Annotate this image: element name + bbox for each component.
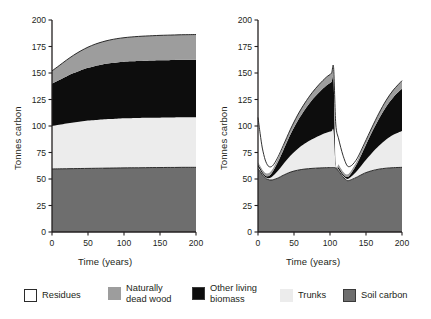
svg-text:0: 0 — [256, 238, 261, 248]
svg-text:150: 150 — [238, 68, 253, 78]
svg-text:125: 125 — [238, 95, 253, 105]
svg-text:75: 75 — [36, 148, 46, 158]
chart-panel-managed: Tonnes carbon Time (years) 0255075100125… — [206, 0, 431, 275]
figure-container: Tonnes carbon Time (years) 0255075100125… — [0, 0, 431, 319]
trunks-swatch-icon — [280, 289, 293, 302]
legend-item-soil-carbon: Soil carbon — [343, 289, 408, 302]
svg-text:50: 50 — [242, 174, 252, 184]
svg-text:25: 25 — [36, 201, 46, 211]
legend-label: Other living biomass — [210, 283, 257, 304]
svg-text:100: 100 — [323, 238, 338, 248]
residues-swatch-icon — [24, 289, 37, 302]
svg-text:200: 200 — [189, 238, 204, 248]
svg-text:150: 150 — [153, 238, 168, 248]
svg-text:100: 100 — [117, 238, 132, 248]
svg-text:200: 200 — [395, 238, 410, 248]
legend-item-residues: Residues — [24, 289, 81, 302]
dead-wood-swatch-icon — [108, 287, 121, 300]
legend-label: Soil carbon — [361, 290, 408, 301]
svg-text:50: 50 — [36, 174, 46, 184]
svg-text:125: 125 — [32, 95, 47, 105]
svg-text:50: 50 — [83, 238, 93, 248]
svg-text:100: 100 — [238, 121, 253, 131]
legend-item-other-living-biomass: Other living biomass — [192, 283, 257, 304]
plot-area-unmanaged: 0255075100125150175200050100150200 — [0, 0, 215, 275]
svg-text:75: 75 — [242, 148, 252, 158]
legend-item-trunks: Trunks — [280, 289, 326, 302]
svg-text:25: 25 — [242, 201, 252, 211]
svg-text:200: 200 — [32, 15, 47, 25]
legend-label: Residues — [42, 290, 81, 301]
chart-panel-unmanaged: Tonnes carbon Time (years) 0255075100125… — [0, 0, 215, 275]
svg-text:175: 175 — [32, 42, 47, 52]
legend-item-naturally-dead-wood: Naturally dead wood — [108, 283, 172, 304]
plot-area-managed: 0255075100125150175200050100150200 — [206, 0, 431, 275]
svg-text:150: 150 — [32, 68, 47, 78]
svg-text:0: 0 — [41, 227, 46, 237]
legend-label: Naturally dead wood — [126, 283, 172, 304]
svg-text:50: 50 — [289, 238, 299, 248]
svg-text:150: 150 — [359, 238, 374, 248]
chart-legend: Residues Naturally dead wood Other livin… — [0, 275, 431, 319]
svg-text:0: 0 — [247, 227, 252, 237]
svg-text:175: 175 — [238, 42, 253, 52]
legend-label: Trunks — [298, 290, 326, 301]
svg-text:100: 100 — [32, 121, 47, 131]
living-biomass-swatch-icon — [192, 287, 205, 300]
svg-text:200: 200 — [238, 15, 253, 25]
svg-text:0: 0 — [50, 238, 55, 248]
soil-carbon-swatch-icon — [343, 289, 356, 302]
